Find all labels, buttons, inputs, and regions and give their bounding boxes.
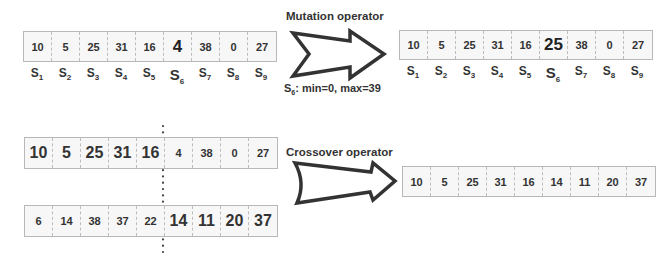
crossover-title: Crossover operator (286, 146, 393, 158)
gene-cell: 37 (249, 206, 277, 236)
crossover-arrow-icon (295, 163, 395, 203)
gene-cell: 38 (193, 138, 221, 168)
gene-label: S1 (399, 64, 427, 84)
gene-cell: 10 (24, 32, 52, 61)
gene-cell: 5 (431, 167, 459, 196)
gene-cell: 31 (487, 167, 515, 196)
gene-cell: 20 (221, 206, 249, 236)
gene-cell: 4 (165, 138, 193, 168)
mutation-after-gene-labels: S1S2S3S4S5S6S7S8S9 (399, 64, 651, 84)
gene-cell: 25 (459, 167, 487, 196)
gene-label: S6 (539, 64, 567, 84)
gene-label: S3 (79, 66, 107, 86)
gene-cell: 22 (137, 206, 165, 236)
gene-cell: 11 (193, 206, 221, 236)
gene-cell: 11 (571, 167, 599, 196)
gene-label: S4 (483, 64, 511, 84)
mutation-arrow-icon (293, 31, 384, 78)
gene-cell: 16 (512, 31, 540, 59)
mutation-after-chromosome: 1052531162538027 (399, 30, 653, 60)
gene-cell: 38 (192, 32, 220, 61)
gene-cell: 14 (165, 206, 193, 236)
crossover-parent1-chromosome: 105253116438027 (24, 137, 278, 169)
gene-label: S7 (191, 66, 219, 86)
gene-cell: 10 (400, 31, 428, 59)
mutation-constraint: S6: min=0, max=39 (284, 82, 381, 96)
crossover-child-chromosome: 10525311614112037 (402, 166, 656, 197)
gene-cell: 0 (220, 32, 248, 61)
gene-cell: 31 (108, 32, 136, 61)
mutation-title: Mutation operator (286, 10, 384, 22)
gene-label: S1 (23, 66, 51, 86)
gene-cell: 25 (81, 138, 109, 168)
gene-label: S4 (107, 66, 135, 86)
gene-cell: 0 (221, 138, 249, 168)
gene-cell: 31 (109, 138, 137, 168)
gene-cell: 25 (456, 31, 484, 59)
gene-cell: 27 (248, 32, 276, 61)
gene-cell: 0 (596, 31, 624, 59)
gene-cell: 10 (403, 167, 431, 196)
gene-cell: 27 (624, 31, 652, 59)
gene-label: S9 (623, 64, 651, 84)
gene-label: S6 (163, 66, 191, 86)
gene-cell: 25 (540, 31, 568, 59)
gene-cell: 37 (109, 206, 137, 236)
gene-label: S2 (427, 64, 455, 84)
gene-label: S7 (567, 64, 595, 84)
mutation-before-chromosome: 105253116438027 (23, 31, 277, 62)
gene-label: S5 (511, 64, 539, 84)
gene-label: S8 (219, 66, 247, 86)
crossover-parent2-chromosome: 61438372214112037 (24, 205, 278, 237)
gene-label: S9 (247, 66, 275, 86)
gene-cell: 14 (53, 206, 81, 236)
gene-cell: 37 (627, 167, 655, 196)
gene-label: S8 (595, 64, 623, 84)
gene-cell: 20 (599, 167, 627, 196)
gene-cell: 4 (164, 32, 192, 61)
gene-cell: 25 (80, 32, 108, 61)
gene-cell: 16 (136, 32, 164, 61)
constraint-range: : min=0, max=39 (295, 82, 381, 94)
gene-cell: 16 (137, 138, 165, 168)
gene-cell: 5 (53, 138, 81, 168)
gene-cell: 10 (25, 138, 53, 168)
gene-label: S2 (51, 66, 79, 86)
gene-cell: 27 (249, 138, 277, 168)
mutation-before-gene-labels: S1S2S3S4S5S6S7S8S9 (23, 66, 275, 86)
gene-cell: 38 (81, 206, 109, 236)
gene-label: S5 (135, 66, 163, 86)
gene-label: S3 (455, 64, 483, 84)
gene-cell: 38 (568, 31, 596, 59)
gene-cell: 31 (484, 31, 512, 59)
gene-cell: 16 (515, 167, 543, 196)
gene-cell: 5 (428, 31, 456, 59)
gene-cell: 6 (25, 206, 53, 236)
gene-cell: 5 (52, 32, 80, 61)
gene-cell: 14 (543, 167, 571, 196)
